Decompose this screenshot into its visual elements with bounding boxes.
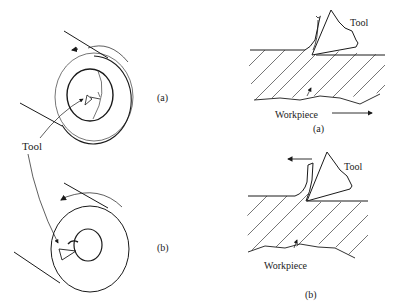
diagram-drawing xyxy=(0,0,397,308)
right-a-workpiece xyxy=(245,10,395,113)
left-a-label: (a) xyxy=(157,93,168,103)
right-b-label: (b) xyxy=(305,290,317,300)
right-a-tool-label: Tool xyxy=(350,18,368,28)
cutting-diagram: (a) Tool (b) Tool Workpiece (a) Tool Wor… xyxy=(0,0,397,308)
right-a-workpiece-label: Workpiece xyxy=(275,110,318,120)
right-b-tool-label: Tool xyxy=(344,162,362,172)
left-a-cylinder xyxy=(20,31,133,144)
left-tool-label: Tool xyxy=(22,141,42,152)
left-b-cylinder xyxy=(14,183,129,292)
right-b-workpiece-label: Workpiece xyxy=(264,261,307,271)
right-a-label: (a) xyxy=(313,124,324,134)
left-b-label: (b) xyxy=(157,243,169,253)
